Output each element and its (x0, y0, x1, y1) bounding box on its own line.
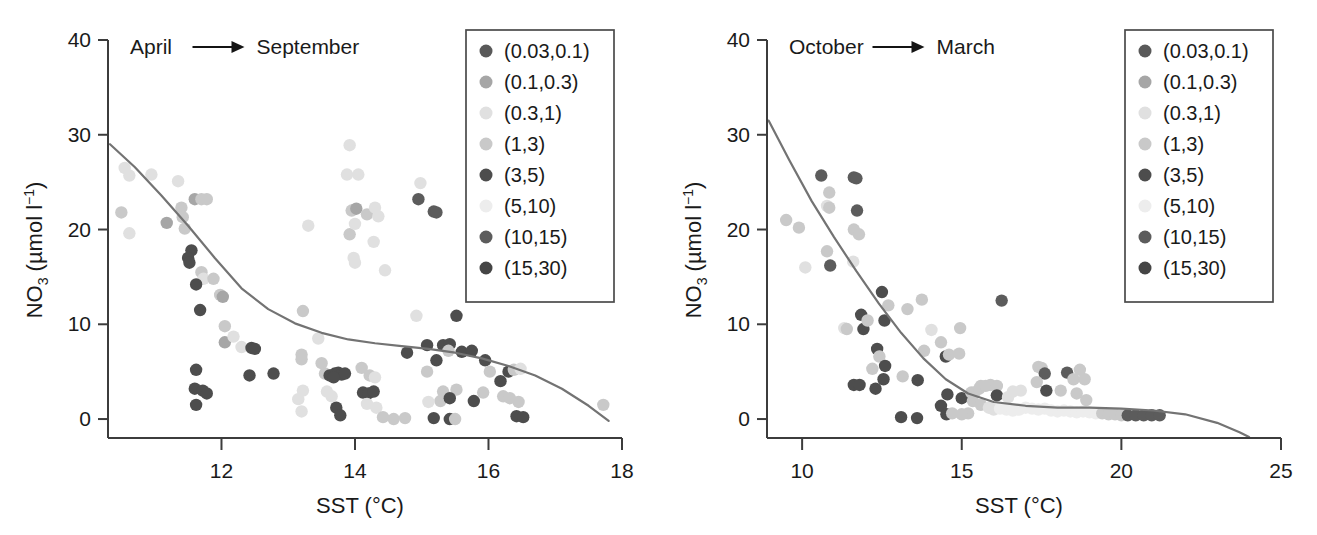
plot-svg-right: 01020304010152025 SST (°C) NO3 (µmol l−1… (659, 0, 1317, 535)
scatter-point (325, 390, 337, 402)
scatter-point (243, 369, 255, 381)
chart-panel-right: 01020304010152025 SST (°C) NO3 (µmol l−1… (659, 0, 1317, 535)
legend-swatch-dot (1139, 262, 1152, 275)
scatter-point (1078, 373, 1090, 385)
y-axis-title-right: NO3 (µmol l−1) (680, 182, 710, 319)
legend-swatch-dot (480, 262, 493, 275)
scatter-point (217, 291, 229, 303)
scatter-point (1040, 384, 1052, 396)
scatter-point (123, 169, 135, 181)
scatter-point (302, 220, 314, 232)
legend-swatch-dot (480, 45, 493, 58)
scatter-point (869, 383, 881, 395)
scatter-point (115, 206, 127, 218)
legend-swatch-dot (480, 138, 493, 151)
scatter-point (851, 204, 863, 216)
scatter-point (367, 385, 379, 397)
legend-swatch-dot (480, 169, 493, 182)
y-tick-label: 10 (727, 312, 750, 335)
figure-root: 01020304012141618 SST (°C) NO3 (µmol l−1… (0, 0, 1317, 535)
scatter-point (428, 412, 440, 424)
scatter-point (925, 324, 937, 336)
legend-right: (0.03,0.1)(0.1,0.3)(0.3,1)(1,3)(3,5)(5,1… (1125, 30, 1273, 302)
scatter-point (401, 347, 413, 359)
legend-swatch-dot (1139, 231, 1152, 244)
legend-swatch-dot (1139, 45, 1152, 58)
scatter-point (876, 286, 888, 298)
scatter-point (327, 371, 339, 383)
scatter-point (911, 374, 923, 386)
y-tick-label: 40 (68, 28, 91, 51)
scatter-point (916, 293, 928, 305)
legend-entry-label: (0.03,0.1) (1163, 40, 1249, 62)
scatter-point (190, 364, 202, 376)
legend-entry-label: (1,3) (504, 133, 545, 155)
scatter-point (372, 210, 384, 222)
scatter-point (352, 168, 364, 180)
legend-swatch-dot (1139, 107, 1152, 120)
scatter-point (1055, 384, 1067, 396)
scatter-point (377, 411, 389, 423)
scatter-point (512, 396, 524, 408)
scatter-point (334, 409, 346, 421)
scatter-point (295, 405, 307, 417)
scatter-point (339, 367, 351, 379)
scatter-point (297, 305, 309, 317)
legend-swatch-dot (480, 107, 493, 120)
legend-entry-label: (10,15) (504, 226, 567, 248)
legend-entry-label: (5,10) (1163, 195, 1215, 217)
scatter-point (896, 370, 908, 382)
scatter-point (517, 411, 529, 423)
scatter-point (341, 168, 353, 180)
y-tick-label: 20 (727, 218, 750, 241)
scatter-point (369, 371, 381, 383)
scatter-point (349, 256, 361, 268)
x-tick-label: 15 (950, 459, 973, 482)
x-tick-label: 18 (610, 459, 633, 482)
scatter-point (450, 310, 462, 322)
caption-from-label: April (130, 35, 172, 58)
scatter-point (414, 177, 426, 189)
scatter-point (379, 264, 391, 276)
scatter-point (422, 396, 434, 408)
scatter-point (953, 347, 965, 359)
scatter-point (879, 360, 891, 372)
scatter-point (850, 172, 862, 184)
legend-entry-label: (10,15) (1163, 226, 1226, 248)
scatter-point (172, 175, 184, 187)
legend-entry-label: (0.3,1) (1163, 102, 1221, 124)
scatter-point (1002, 391, 1014, 403)
scatter-point (941, 388, 953, 400)
scatter-point (349, 218, 361, 230)
legend-entry-label: (3,5) (504, 164, 545, 186)
scatter-point (1031, 376, 1043, 388)
scatter-point (194, 304, 206, 316)
scatter-point (350, 202, 362, 214)
legend-swatch-dot (1139, 200, 1152, 213)
scatter-point (901, 303, 913, 315)
scatter-point (824, 259, 836, 271)
scatter-point (183, 256, 195, 268)
panel-caption-right: OctoberMarch (789, 35, 995, 58)
scatter-point (410, 310, 422, 322)
legend-swatch-dot (480, 200, 493, 213)
scatter-point (597, 399, 609, 411)
scatter-point (866, 363, 878, 375)
scatter-points-right (780, 169, 1166, 424)
caption-from-label: October (789, 35, 864, 58)
scatter-point (430, 354, 442, 366)
scatter-point (954, 322, 966, 334)
scatter-point (123, 227, 135, 239)
x-axis-title-left: SST (°C) (316, 493, 404, 518)
panel-caption-left: AprilSeptember (130, 35, 359, 58)
scatter-point (267, 367, 279, 379)
scatter-point (177, 211, 189, 223)
chart-panel-left: 01020304012141618 SST (°C) NO3 (µmol l−1… (0, 0, 658, 535)
x-tick-label: 16 (477, 459, 500, 482)
scatter-point (444, 392, 456, 404)
scatter-point (190, 278, 202, 290)
scatter-point (823, 186, 835, 198)
scatter-point (799, 261, 811, 273)
scatter-point (249, 343, 261, 355)
legend-entry-label: (0.3,1) (504, 102, 562, 124)
